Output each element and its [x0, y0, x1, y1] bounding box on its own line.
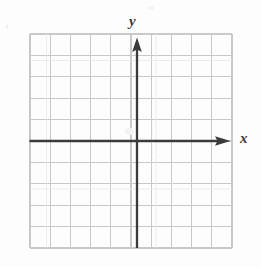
coordinate-plane-figure: y x — [0, 0, 261, 267]
scan-speck — [125, 128, 134, 135]
x-axis-label: x — [240, 131, 248, 146]
scan-speck — [6, 24, 8, 29]
scan-speck — [148, 6, 154, 10]
y-axis-label: y — [129, 14, 136, 29]
